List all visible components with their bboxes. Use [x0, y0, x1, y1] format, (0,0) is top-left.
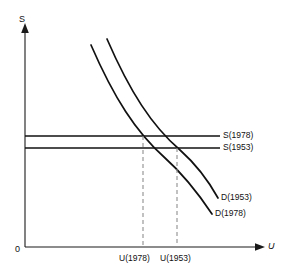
supply-label-1978: S(1978) [223, 131, 253, 140]
economics-supply-demand-chart: S U 0 S(1978) S(1953) D(1953) D(1978) U(… [0, 0, 282, 276]
demand-curve-1953 [107, 39, 218, 198]
x-axis-label: U [268, 242, 275, 251]
demand-label-1978: D(1978) [215, 209, 246, 218]
x-axis-arrow-icon [255, 243, 265, 251]
demand-curve-1978 [91, 45, 212, 214]
y-axis-arrow-icon [21, 23, 29, 33]
origin-label: 0 [15, 245, 20, 254]
supply-label-1953: S(1953) [223, 143, 253, 152]
demand-label-1953: D(1953) [221, 193, 252, 202]
x-tick-label-equilibrium-1978: U(1978) [119, 254, 150, 263]
x-tick-label-equilibrium-1953: U(1953) [160, 254, 191, 263]
y-axis-label: S [19, 15, 25, 24]
